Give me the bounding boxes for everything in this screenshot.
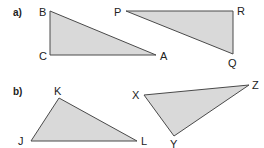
vertex-label-x: X [132, 89, 140, 101]
triangle-pqr [126, 11, 233, 54]
vertex-label-l: L [141, 135, 147, 147]
vertex-label-y: Y [170, 138, 178, 148]
vertex-label-j: J [18, 135, 24, 147]
triangle-jkl [31, 98, 137, 141]
vertex-label-a: A [160, 50, 168, 62]
part-b-label: b) [13, 86, 22, 97]
vertex-label-k: K [54, 85, 62, 97]
triangle-diagram: a) B C A P R Q b) K J L X Z Y [0, 0, 264, 148]
part-a-label: a) [13, 7, 22, 18]
vertex-label-p: P [114, 6, 121, 18]
triangle-xyz [144, 85, 249, 136]
vertex-label-b: B [39, 6, 46, 18]
vertex-label-r: R [237, 5, 245, 17]
triangle-abc [50, 11, 156, 55]
vertex-label-c: C [39, 50, 47, 62]
vertex-label-z: Z [252, 79, 259, 91]
vertex-label-q: Q [228, 57, 237, 69]
